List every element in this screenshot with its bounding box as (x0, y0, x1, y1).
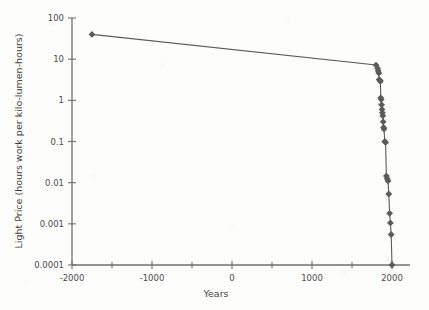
y-tick-label: 0.0001 (34, 260, 64, 270)
data-point-marker (386, 210, 393, 217)
x-tick-label: 2000 (381, 273, 403, 283)
data-series-group (89, 31, 396, 268)
x-tick-label: -2000 (60, 273, 85, 283)
x-tick-label: 1000 (301, 273, 323, 283)
y-tick-label: 10 (53, 54, 64, 64)
data-point-marker (385, 191, 392, 198)
y-tick-label: 0.001 (40, 219, 64, 229)
data-point-marker (89, 31, 96, 38)
data-point-marker (388, 231, 395, 238)
tick-labels-group: 1001010.10.010.0010.0001-2000-1000010002… (34, 13, 403, 283)
series-line (92, 34, 392, 265)
light-price-chart: 1001010.10.010.0010.0001-2000-1000010002… (0, 0, 429, 310)
y-tick-label: 0.1 (50, 137, 64, 147)
x-axis-title: Years (202, 288, 228, 299)
x-tick-label: 0 (229, 273, 234, 283)
x-tick-label: -1000 (140, 273, 165, 283)
data-point-marker (387, 220, 394, 227)
chart-page: 1001010.10.010.0010.0001-2000-1000010002… (0, 0, 429, 310)
y-axis-title: Light Price (hours work per kilo-lumen-h… (13, 34, 24, 249)
y-tick-label: 100 (48, 13, 64, 23)
data-point-marker (389, 262, 396, 269)
y-tick-label: 1 (59, 95, 64, 105)
data-point-marker (380, 118, 387, 125)
y-tick-label: 0.01 (45, 178, 64, 188)
tick-marks-group (68, 18, 392, 269)
axes-group (72, 18, 410, 265)
